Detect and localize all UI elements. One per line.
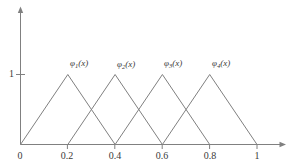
x-tick-label-0: 0 — [18, 151, 23, 161]
series-label-phi-4-sub: 4 — [217, 62, 220, 69]
series-label-phi-4: φ4(x) — [212, 59, 230, 68]
series-label-phi-4-tail: (x) — [220, 58, 230, 68]
series-label-phi-1-tail: (x) — [78, 58, 88, 68]
series-label-phi-3-tail: (x) — [172, 58, 182, 68]
series-label-phi-3: φ3(x) — [164, 59, 182, 68]
series-label-phi-2-sub: 2 — [122, 63, 125, 70]
hat-function-chart: 1 0 0.2 0.4 0.6 0.8 1 φ1(x) φ2(x) φ3(x) … — [0, 0, 294, 166]
x-tick-label-0-2: 0.2 — [61, 151, 74, 161]
curve-phi-2 — [68, 75, 163, 145]
x-axis-arrow-icon — [280, 142, 287, 147]
x-tick-label-0-8: 0.8 — [204, 151, 217, 161]
curve-phi-1 — [21, 75, 116, 145]
series-label-phi-1: φ1(x) — [70, 59, 88, 68]
series-label-phi-2: φ2(x) — [117, 60, 135, 69]
y-axis-arrow-icon — [18, 7, 23, 14]
series-label-phi-2-tail: (x) — [125, 59, 135, 69]
x-tick-label-0-4: 0.4 — [109, 151, 122, 161]
curve-series-group — [21, 75, 258, 145]
series-label-phi-1-sub: 1 — [75, 62, 78, 69]
x-tick-label-0-6: 0.6 — [156, 151, 169, 161]
plot-canvas — [0, 0, 294, 166]
x-tick-marks — [67, 145, 257, 150]
y-tick-label-1: 1 — [9, 69, 14, 79]
curve-phi-3 — [115, 75, 210, 145]
x-tick-label-1: 1 — [255, 151, 260, 161]
series-label-phi-3-sub: 3 — [169, 62, 172, 69]
curve-phi-4 — [162, 75, 257, 145]
